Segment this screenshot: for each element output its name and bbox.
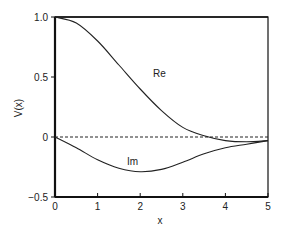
y-axis-title: V(x) [13,99,24,117]
x-tick-3: 3 [180,201,186,212]
y-tick-1.0: 1.0 [34,12,48,23]
re-curve [55,17,268,142]
x-tick-5: 5 [265,201,271,212]
x-tick-4: 4 [223,201,229,212]
x-tick-1: 1 [95,201,101,212]
re-label: Re [153,68,166,79]
y-tick-0.5: 0.5 [34,72,48,83]
x-tick-2: 2 [137,201,143,212]
im-label: Im [127,156,138,167]
y-tick-0: 0 [42,132,48,143]
plot-frame [55,17,268,197]
y-tick-neg0.5: −0.5 [28,192,48,203]
x-axis-title: x [158,215,163,226]
x-tick-0: 0 [52,201,58,212]
chart: 0 1 2 3 4 5 1.0 0.5 0 −0.5 x V(x) Re Im [0,0,285,235]
im-curve [55,137,268,172]
